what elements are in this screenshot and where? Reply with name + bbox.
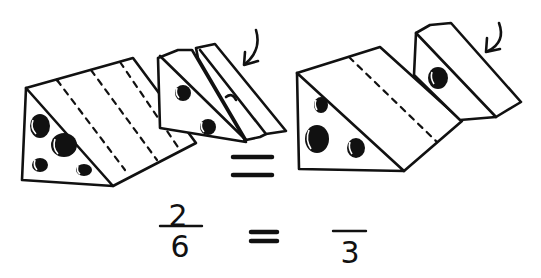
left-denominator: 6 (170, 229, 189, 264)
picture-equals-sign (233, 157, 272, 175)
left-slice-line-2 (91, 70, 157, 160)
right-denominator: 3 (340, 235, 359, 270)
left-removed-slices (158, 30, 286, 142)
right-removed-slice (414, 23, 521, 120)
left-numerator: 2 (168, 198, 187, 233)
fraction-equation: 2 6 3 (160, 198, 366, 270)
cheese-fraction-illustration: 2 6 3 (0, 0, 541, 278)
right-curved-arrow-icon (488, 23, 501, 51)
left-curved-arrow-icon (245, 30, 258, 64)
right-wedge-front-face (297, 73, 404, 171)
